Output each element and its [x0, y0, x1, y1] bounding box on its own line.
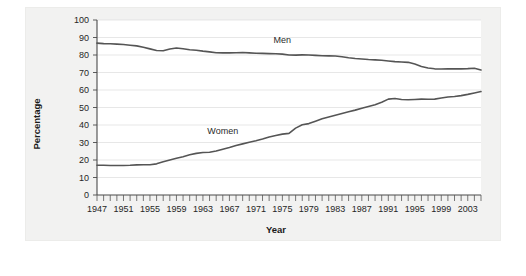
y-tick-label: 50 [79, 103, 89, 113]
y-tick-label: 10 [79, 173, 89, 183]
y-tick-label: 40 [79, 120, 89, 130]
x-tick-label: 1951 [113, 204, 133, 214]
x-tick-label: 1995 [405, 204, 425, 214]
x-tick-label: 1947 [87, 204, 107, 214]
x-tick-label: 1967 [219, 204, 239, 214]
y-tick-label: 20 [79, 155, 89, 165]
series-label-women: Women [207, 126, 238, 136]
y-tick-label: 30 [79, 138, 89, 148]
line-chart: 0102030405060708090100 19471951195519591… [26, 8, 500, 240]
x-tick-label: 1991 [378, 204, 398, 214]
x-tick-label: 1987 [352, 204, 372, 214]
chart-figure: 0102030405060708090100 19471951195519591… [0, 0, 526, 276]
y-tick-label: 80 [79, 50, 89, 60]
y-axis: 0102030405060708090100 [74, 15, 97, 200]
x-tick-label: 1963 [193, 204, 213, 214]
x-tick-label: 1975 [272, 204, 292, 214]
y-axis-title: Percentage [31, 98, 42, 149]
x-tick-label: 1979 [299, 204, 319, 214]
x-tick-label: 1955 [140, 204, 160, 214]
x-axis: 1947195119551959196319671971197519791983… [87, 195, 481, 214]
x-tick-label: 1999 [431, 204, 451, 214]
x-tick-label: 2003 [458, 204, 478, 214]
y-tick-label: 60 [79, 85, 89, 95]
x-tick-label: 1959 [166, 204, 186, 214]
x-axis-title: Year [266, 224, 286, 235]
series-label-men: Men [274, 35, 292, 45]
y-tick-label: 0 [84, 190, 89, 200]
x-tick-label: 1983 [325, 204, 345, 214]
x-tick-label: 1971 [246, 204, 266, 214]
y-tick-label: 70 [79, 68, 89, 78]
y-tick-label: 100 [74, 15, 89, 25]
chart-panel: 0102030405060708090100 19471951195519591… [26, 8, 500, 240]
y-tick-label: 90 [79, 33, 89, 43]
